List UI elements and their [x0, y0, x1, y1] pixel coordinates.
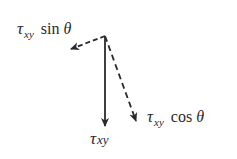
tau-xy-cos-theta-label: τxycosθ: [147, 107, 204, 128]
tau-xy-cos-theta-vector-arrow: [105, 36, 136, 121]
tau-xy-label: τxy: [90, 129, 109, 148]
tau-xy-sin-theta-label: τxysinθ: [17, 19, 72, 40]
shear-stress-decomposition-diagram: τxysinθ τxycosθ τxy: [0, 0, 237, 159]
tau-xy-sin-theta-vector-arrow: [71, 36, 105, 49]
